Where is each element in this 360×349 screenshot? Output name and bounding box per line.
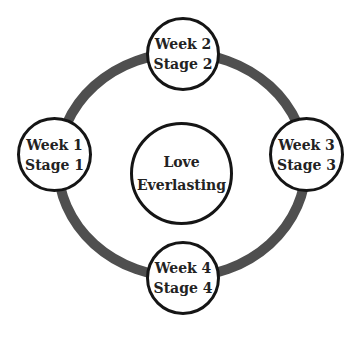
center-label-line1: Love (163, 151, 199, 174)
node-week-2: Week 2 Stage 2 (146, 17, 220, 91)
node-label-line1: Week 3 (278, 135, 335, 155)
center-node: Love Everlasting (130, 122, 233, 225)
node-label-line1: Week 2 (155, 34, 212, 54)
center-label-line2: Everlasting (137, 174, 226, 197)
node-week-1: Week 1 Stage 1 (17, 117, 92, 192)
node-label-line2: Stage 3 (277, 155, 336, 175)
node-label-line2: Stage 4 (154, 278, 213, 298)
node-week-3: Week 3 Stage 3 (269, 117, 344, 192)
node-week-4: Week 4 Stage 4 (146, 241, 220, 315)
node-label-line1: Week 1 (26, 135, 83, 155)
node-label-line2: Stage 1 (25, 155, 84, 175)
node-label-line1: Week 4 (155, 258, 212, 278)
node-label-line2: Stage 2 (154, 54, 213, 74)
